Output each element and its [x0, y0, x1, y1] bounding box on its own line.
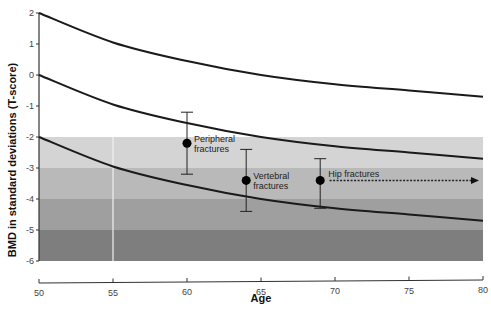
x-tick-label: 70: [330, 286, 340, 296]
y-tick-label: -1: [26, 101, 34, 111]
bmd-curve: [39, 13, 483, 97]
y-tick-label: 2: [29, 8, 34, 18]
y-tick-label: -2: [26, 132, 34, 142]
y-axis: 210-1-2-3-4-5-6: [26, 8, 39, 266]
y-tick-label: -4: [26, 194, 34, 204]
fracture-label: Hip fractures: [328, 169, 380, 179]
mean-marker: [242, 176, 251, 185]
x-tick-label: 50: [34, 288, 44, 298]
x-tick-label: 80: [478, 285, 488, 295]
t-score-band: [39, 230, 483, 261]
x-tick-label: 60: [182, 287, 192, 297]
fracture-label: fractures: [253, 181, 289, 191]
fracture-label: Peripheral: [194, 134, 235, 144]
y-tick-label: 0: [29, 70, 34, 80]
bmd-age-chart: 210-1-2-3-4-5-6 50556065707580 Periphera…: [0, 0, 491, 309]
mean-marker: [316, 176, 325, 185]
y-tick-label: -6: [26, 256, 34, 266]
y-tick-label: 1: [29, 39, 34, 49]
mean-marker: [183, 139, 192, 148]
y-axis-title: BMD in standard deviations (T-score): [6, 62, 18, 257]
fracture-label: Vertebral: [253, 171, 289, 181]
y-tick-label: -5: [26, 225, 34, 235]
fracture-label: fractures: [194, 144, 230, 154]
x-tick-label: 55: [108, 288, 118, 298]
x-tick-label: 75: [404, 286, 414, 296]
y-tick-label: -3: [26, 163, 34, 173]
x-axis-title: Age: [251, 292, 272, 304]
